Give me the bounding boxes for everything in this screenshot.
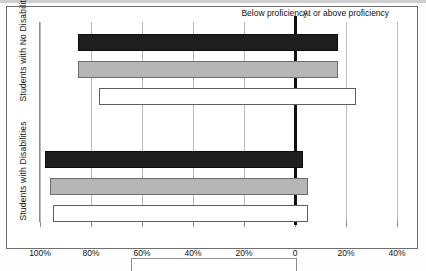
x-tick-label: 20%: [337, 248, 354, 258]
tick-20%: [244, 222, 245, 227]
bar-white: [53, 205, 308, 222]
caption-box: [131, 258, 297, 271]
bar-white: [99, 88, 357, 105]
top-rule: [0, 0, 426, 3]
tick-40%: [397, 222, 398, 227]
header-below-proficiency: Below proficiency: [241, 8, 307, 18]
x-tick-label: 40%: [388, 248, 405, 258]
chart-figure: Students with No Disabilities Students w…: [0, 0, 426, 271]
bar-gray: [78, 61, 338, 78]
tick-60%: [142, 222, 143, 227]
gridline-40%: [397, 22, 398, 222]
x-tick-label: 0: [293, 248, 298, 258]
gridline-100%: [40, 22, 41, 222]
x-tick-label: 40%: [184, 248, 201, 258]
tick-40%: [193, 222, 194, 227]
tick-80%: [91, 222, 92, 227]
x-tick-label: 20%: [235, 248, 252, 258]
x-tick-label: 100%: [29, 248, 51, 258]
header-at-or-above-proficiency: At or above proficiency: [303, 8, 389, 18]
group-label-disabilities: Students with Disabilities: [18, 96, 28, 246]
plot-area: 100%80%60%40%20%020%40%: [30, 22, 412, 222]
x-tick-label: 60%: [133, 248, 150, 258]
tick-20%: [346, 222, 347, 227]
bar-gray: [50, 178, 308, 195]
bar-black: [45, 151, 303, 168]
x-tick-label: 80%: [82, 248, 99, 258]
bar-black: [78, 34, 338, 51]
gridline-20%: [346, 22, 347, 222]
tick-100%: [40, 222, 41, 227]
